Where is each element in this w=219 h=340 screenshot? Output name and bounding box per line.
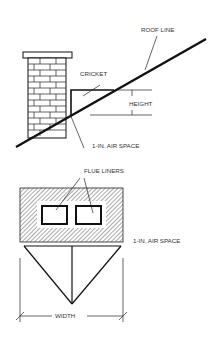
air-space-leader <box>70 114 84 148</box>
cricket-plan <box>24 246 121 304</box>
chimney-cricket-diagram: ROOF LINE CRICKET HEIGHT 1-IN. AIR SPACE… <box>0 0 219 340</box>
cricket-label: CRICKET <box>80 70 107 77</box>
flue-liners-label: FLUE LINERS <box>84 167 124 174</box>
roof-line-leader <box>145 36 157 70</box>
side-view: ROOF LINE CRICKET HEIGHT 1-IN. AIR SPACE <box>16 26 206 149</box>
air-space-label-plan: 1-IN. AIR SPACE <box>133 237 180 244</box>
flue-liner-right <box>76 206 101 224</box>
chimney-brick <box>28 58 66 138</box>
roof-line-label: ROOF LINE <box>141 26 174 33</box>
flue-liner-left <box>42 206 67 224</box>
height-label: HEIGHT <box>129 100 153 107</box>
chimney-cap <box>23 52 72 58</box>
plan-view: FLUE LINERS 1-IN. AIR SPACE WIDTH <box>16 167 180 322</box>
air-space-label-side: 1-IN. AIR SPACE <box>92 142 139 149</box>
width-label: WIDTH <box>55 312 75 319</box>
